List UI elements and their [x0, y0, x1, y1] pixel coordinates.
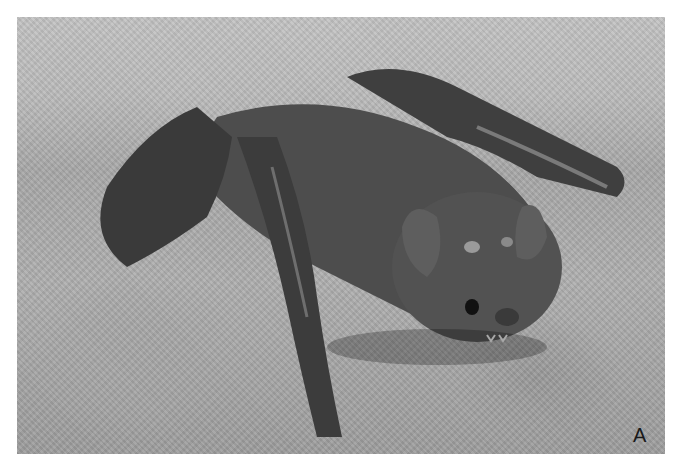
bat-eye [465, 299, 479, 315]
bat-left-wing [100, 107, 232, 267]
bat-nose [495, 308, 519, 326]
bat-illustration [17, 17, 665, 454]
panel-label: A [633, 425, 646, 445]
bat-photograph [17, 17, 665, 454]
